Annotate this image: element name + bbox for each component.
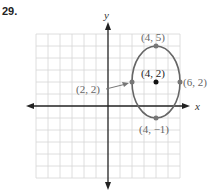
point-right (178, 80, 183, 85)
point-bottom (154, 116, 159, 121)
label-right: (6, 2) (183, 76, 207, 89)
y-axis-label: y (103, 9, 109, 21)
label-left: (2, 2) (76, 83, 100, 96)
point-top (154, 44, 159, 49)
point-center (154, 80, 159, 85)
x-axis-label: x (194, 100, 200, 112)
coordinate-plane: x y (4, 5) (4, 2) (6, 2) (2, 2) (4, −1) (0, 0, 217, 191)
label-center: (4, 2) (141, 67, 165, 80)
arrow-to-left-point (106, 82, 129, 89)
point-left (130, 80, 135, 85)
label-bottom: (4, −1) (139, 123, 169, 136)
label-top: (4, 5) (141, 31, 165, 44)
